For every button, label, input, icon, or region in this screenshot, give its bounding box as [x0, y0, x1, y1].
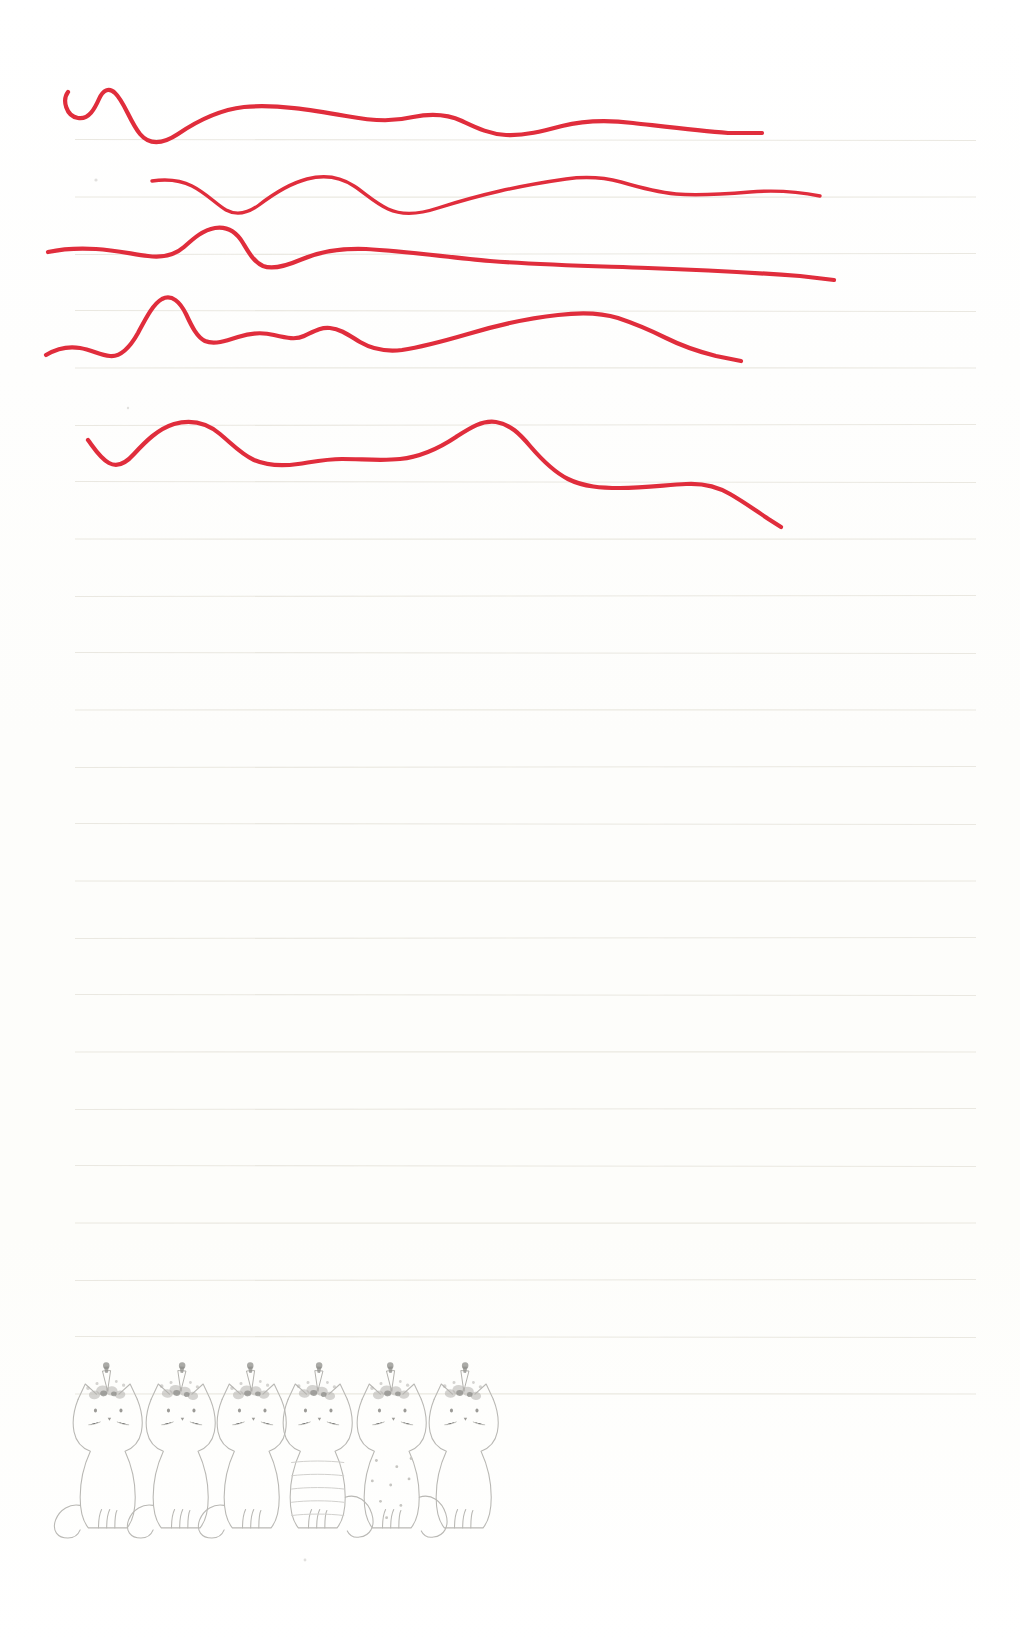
cat-flower-crown-icon: [296, 1361, 337, 1400]
notebook-page: [0, 0, 1020, 1645]
cat-body: [357, 1384, 426, 1528]
cat-flower-crown-icon: [229, 1361, 270, 1400]
cat-2: [127, 1361, 215, 1538]
cat-4: [283, 1361, 373, 1537]
cat-tail: [419, 1496, 447, 1537]
cat-tail: [345, 1496, 373, 1537]
cat-body: [73, 1384, 142, 1528]
cat-tail: [54, 1505, 80, 1538]
cat-stripes: [291, 1461, 344, 1516]
cat-1: [54, 1361, 142, 1538]
cat-3: [198, 1361, 286, 1538]
cat-flower-crown-icon: [85, 1361, 126, 1400]
pencil-cat-row: [0, 0, 1020, 1645]
cat-body: [146, 1384, 215, 1528]
paper-smudge: [94, 178, 97, 181]
cat-dots: [371, 1457, 413, 1519]
cat-body: [217, 1384, 286, 1528]
cat-flower-crown-icon: [159, 1361, 200, 1400]
cat-tail: [198, 1505, 224, 1538]
cat-flower-crown-icon: [442, 1361, 483, 1400]
cat-body: [283, 1384, 352, 1528]
cat-body: [429, 1384, 498, 1528]
cat-flower-crown-icon: [369, 1361, 410, 1400]
paper-smudge: [127, 407, 129, 409]
paper-smudge: [304, 1559, 307, 1562]
